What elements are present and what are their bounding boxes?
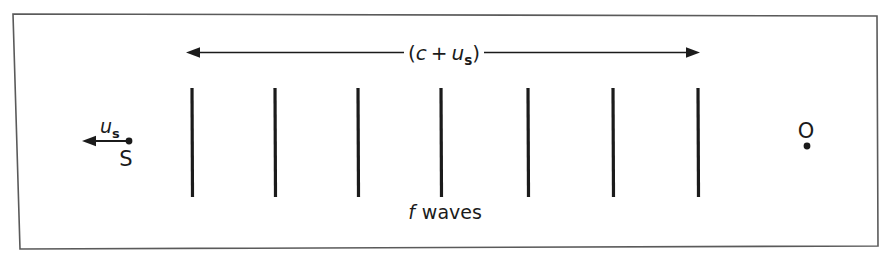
distance-label-open-paren: ( [408,41,416,65]
doppler-effect-figure: (c+us) us S fwaves O [0,0,889,263]
wavefront-line [613,88,614,197]
source-velocity-symbol: u [100,115,112,137]
wavefront-line [441,88,442,197]
wavefront-line [698,88,699,197]
wave-count-symbol: f [408,201,418,223]
distance-label-u: u [451,41,464,65]
source-velocity-label: us [100,115,120,141]
source-label: S [119,147,132,171]
wavefront-line [528,88,529,197]
wavefront-line [358,88,359,197]
distance-arrow-head-left [186,47,200,58]
source-dot [126,138,133,145]
distance-label-plus: + [431,41,448,65]
distance-label-close-paren: ) [472,41,480,65]
distance-label-u-subscript: s [464,52,472,68]
wave-count-word: waves [422,201,482,223]
observer-label: O [798,119,815,143]
distance-label: (c+us) [408,41,480,68]
distance-label-c: c [416,41,427,65]
distance-arrow-head-right [686,47,700,58]
wavefront-line [192,88,193,197]
wavefront-line [275,88,276,197]
source-velocity-arrow-head [82,136,96,146]
source-velocity-arrow-group [82,136,129,146]
diagram-canvas: (c+us) us S fwaves O [0,0,889,263]
wavefront-group [192,88,699,197]
observer-dot [804,143,811,150]
source-velocity-subscript: s [112,126,120,141]
wave-count-label: fwaves [408,201,482,223]
